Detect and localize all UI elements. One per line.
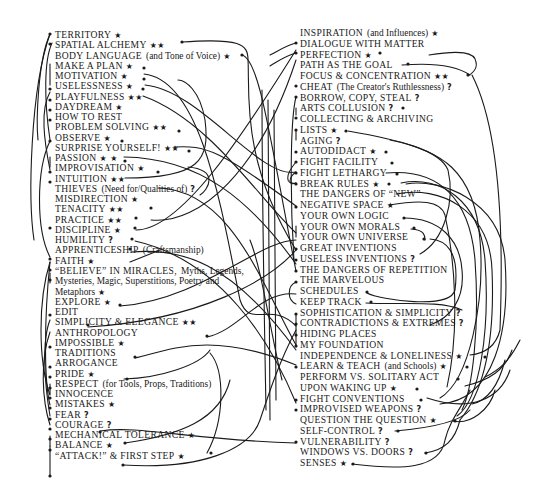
question-mark-icon: ? bbox=[456, 309, 461, 318]
question-mark-icon: ? bbox=[417, 405, 422, 414]
concept-label: PERFORM VS. SOLITARY ACT bbox=[300, 371, 439, 382]
concept-label: QUESTION THE QUESTION bbox=[300, 414, 427, 425]
concept-label: WINDOWS VS. DOORS bbox=[300, 446, 405, 457]
right-concept-item: SENSES★ bbox=[300, 458, 347, 469]
concept-qualifier: Mysteries, Magic, Superstitions, Poetry … bbox=[55, 276, 219, 286]
star-rating-icon: ★★ bbox=[434, 72, 449, 81]
star-rating-icon: ★ bbox=[365, 51, 373, 60]
question-mark-icon: ? bbox=[459, 319, 464, 328]
concept-label: FIGHT FACILITY bbox=[300, 156, 378, 167]
star-rating-icon: ★ bbox=[108, 400, 116, 409]
star-rating-icon: ★★ bbox=[109, 205, 124, 214]
concept-label: NEGATIVE SPACE bbox=[300, 199, 384, 210]
concept-label: KEEP TRACK bbox=[300, 296, 362, 307]
question-mark-icon: ? bbox=[336, 137, 341, 146]
concept-label: LISTS bbox=[300, 124, 327, 135]
star-rating-icon: ★ bbox=[330, 126, 338, 135]
star-rating-icon: ★ bbox=[387, 201, 395, 210]
concept-label: SENSES bbox=[300, 457, 337, 468]
question-mark-icon: ? bbox=[410, 255, 415, 264]
star-rating-icon: ★ bbox=[369, 147, 377, 156]
concept-qualifier: (The Creator's Ruthlessness) bbox=[337, 82, 444, 92]
star-rating-icon: ★ bbox=[430, 416, 438, 425]
star-rating-icon: ★ bbox=[340, 459, 348, 468]
star-rating-icon: ★ bbox=[390, 384, 398, 393]
concept-label: ARTS COLLUSION bbox=[300, 102, 386, 113]
concept-label: SELF-CONTROL bbox=[300, 425, 375, 436]
concept-label: DIALOGUE WITH MATTER bbox=[300, 38, 425, 49]
star-rating-icon: ★★ bbox=[164, 144, 179, 153]
concept-label: LEARN & TEACH bbox=[300, 360, 381, 371]
question-mark-icon: ? bbox=[447, 83, 452, 92]
concept-label: SOPHISTICATION & SIMPLICITY bbox=[300, 307, 453, 318]
question-mark-icon: ? bbox=[408, 448, 413, 457]
star-rating-icon: ★ bbox=[431, 29, 439, 38]
concept-label: AUTODIDACT bbox=[300, 145, 366, 156]
concept-label: MY FOUNDATION bbox=[300, 339, 384, 350]
concept-label: UPON WAKING UP bbox=[300, 382, 387, 393]
star-rating-icon: ★ bbox=[131, 195, 139, 204]
question-mark-icon: ? bbox=[190, 185, 195, 194]
concept-qualifier: (Craftsmanship) bbox=[143, 245, 204, 255]
concept-label: HIDING PLACES bbox=[300, 328, 377, 339]
concept-label: FOCUS & CONCENTRATION bbox=[300, 70, 431, 81]
star-rating-icon: ★★ bbox=[152, 123, 167, 132]
concept-qualifier: (and Tone of Voice) bbox=[146, 51, 220, 61]
concept-label: “BELIEVE” IN MIRACLES, bbox=[55, 265, 177, 276]
concept-label: “ATTACK!” & FIRST STEP bbox=[55, 450, 174, 461]
concept-qualifier: (for Tools, Props, Traditions) bbox=[103, 379, 212, 389]
star-rating-icon: ★★ bbox=[128, 93, 143, 102]
question-mark-icon: ? bbox=[389, 104, 394, 113]
concept-label: PATH AS THE GOAL bbox=[300, 59, 393, 70]
star-rating-icon: ★ bbox=[126, 62, 134, 71]
star-rating-icon: ★ bbox=[137, 164, 145, 173]
concept-label: YOUR OWN MORALS bbox=[300, 221, 400, 232]
star-rating-icon: ★ bbox=[177, 452, 185, 461]
concept-label: FIGHT CONVENTIONS bbox=[300, 393, 405, 404]
concept-label: IMPROVISED WEAPONS bbox=[300, 403, 414, 414]
concept-qualifier: (and Influences) bbox=[367, 28, 428, 38]
concept-label: CONTRADICTIONS & EXTREMES bbox=[300, 317, 456, 328]
concept-qualifier: Myths, Legends, bbox=[181, 266, 244, 276]
star-rating-icon: ★★ bbox=[150, 41, 165, 50]
star-rating-icon: ★ bbox=[104, 298, 112, 307]
left-concept-item: “ATTACK!” & FIRST STEP★ bbox=[55, 451, 185, 462]
star-rating-icon: ★ bbox=[439, 362, 447, 371]
star-rating-icon: ★★ bbox=[182, 318, 197, 327]
concept-label: YOUR OWN LOGIC bbox=[300, 210, 389, 221]
concept-label: YOUR OWN UNIVERSE bbox=[300, 231, 408, 242]
star-rating-icon: ★ bbox=[223, 52, 231, 61]
concept-label: CHEAT bbox=[300, 81, 333, 92]
concept-label: FIGHT LETHARGY bbox=[300, 167, 387, 178]
concept-label: THE DANGERS OF REPETITION bbox=[300, 264, 448, 275]
concept-label: VULNERABILITY bbox=[300, 436, 382, 447]
concept-label: AGING bbox=[300, 135, 333, 146]
question-mark-icon: ? bbox=[385, 438, 390, 447]
concept-qualifier: (and Schools) bbox=[385, 361, 437, 371]
concept-label: BREAK RULES bbox=[300, 178, 369, 189]
star-rating-icon: ★ bbox=[455, 352, 463, 361]
star-rating-icon: ★★ bbox=[110, 175, 125, 184]
concept-label: INDEPENDENCE & LONELINESS bbox=[300, 350, 452, 361]
concept-label: COLLECTING & ARCHIVING bbox=[300, 113, 433, 124]
concept-map: TERRITORY★SPATIAL ALCHEMY★★BODY LANGUAGE… bbox=[0, 0, 555, 502]
star-rating-icon: ★ bbox=[114, 226, 122, 235]
star-rating-icon: ★ bbox=[188, 431, 196, 440]
concept-label: BORROW, COPY, STEAL bbox=[300, 92, 412, 103]
concept-label: GREAT INVENTIONS bbox=[300, 242, 397, 253]
concept-label: THE MARVELOUS bbox=[300, 274, 385, 285]
concept-label: SCHEDULES bbox=[300, 285, 359, 296]
question-mark-icon: ? bbox=[378, 427, 383, 436]
star-rating-icon: ★ bbox=[126, 82, 134, 91]
question-mark-icon: ? bbox=[415, 94, 420, 103]
concept-label: USELESS INVENTIONS bbox=[300, 253, 407, 264]
concept-label: THE DANGERS OF “NEW” bbox=[300, 188, 421, 199]
star-rating-icon: ★ bbox=[372, 180, 380, 189]
concept-label: PERFECTION bbox=[300, 49, 362, 60]
concept-label: INSPIRATION bbox=[300, 27, 363, 38]
star-rating-icon: ★ bbox=[117, 339, 125, 348]
